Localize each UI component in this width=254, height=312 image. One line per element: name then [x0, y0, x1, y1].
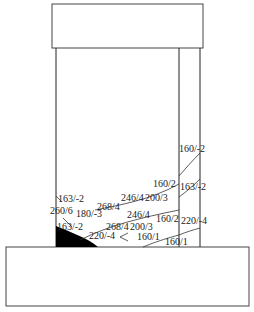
contour-line [120, 233, 128, 241]
stress-label: 246/4 [121, 192, 144, 203]
structure-diagram: 160/-2 160/2 163/-2 246/4 200/3 163/-2 2… [0, 0, 254, 312]
base-block [6, 247, 249, 306]
stress-label: 163/-2 [58, 193, 84, 204]
stress-label: 220/-4 [89, 230, 115, 241]
stress-label: 246/4 [127, 209, 150, 220]
stress-label: 260/6 [50, 205, 73, 216]
stress-label: 180/-3 [76, 208, 102, 219]
stress-label: 160/1 [137, 231, 160, 242]
top-block [52, 4, 203, 48]
contour-line [179, 228, 200, 235]
stress-label: 160/-2 [179, 143, 205, 154]
stress-label: 160/2 [153, 178, 176, 189]
stress-label: 163/-2 [180, 181, 206, 192]
stress-label: 200/3 [145, 192, 168, 203]
stress-label: 163/-2 [57, 221, 83, 232]
stress-label: 220/-4 [181, 215, 207, 226]
stress-label: 160/2 [156, 213, 179, 224]
contour-line [179, 153, 200, 176]
stress-label: 160/1 [165, 236, 188, 247]
